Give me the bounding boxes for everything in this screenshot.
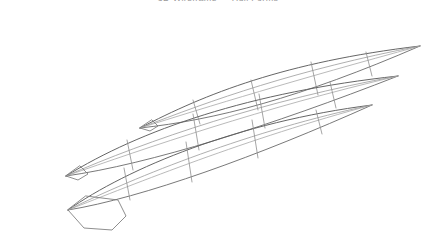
wireframe-canvas xyxy=(0,0,436,242)
hull-lower-stern-face xyxy=(68,196,126,230)
hull-lower-keel-line xyxy=(68,105,372,210)
hull-lower-deck-line xyxy=(68,105,372,210)
hull-upper-chine-line xyxy=(140,46,420,128)
hull-upper-deck-line xyxy=(140,46,420,128)
hull-middle-sheer-line xyxy=(66,76,398,176)
hull-middle-deck-line xyxy=(66,76,398,176)
hull-upper-frame-3 xyxy=(311,62,318,95)
hull-upper-frame-4 xyxy=(366,52,372,76)
wireframe-figure: 3D Wireframe — Hull Forms xyxy=(0,0,436,242)
hull-middle-frame-4 xyxy=(330,82,336,108)
hull-middle xyxy=(66,76,398,180)
hull-upper xyxy=(140,46,420,131)
hull-upper-keel-line xyxy=(140,46,420,128)
hull-lower-frame-3 xyxy=(252,120,258,158)
hull-lower-sheer-line xyxy=(68,105,372,210)
hull-middle-keel-line xyxy=(66,76,398,176)
hull-upper-sheer-line xyxy=(140,46,420,128)
hull-lower-chine-line xyxy=(68,105,372,210)
hull-middle-chine-line xyxy=(66,76,398,176)
